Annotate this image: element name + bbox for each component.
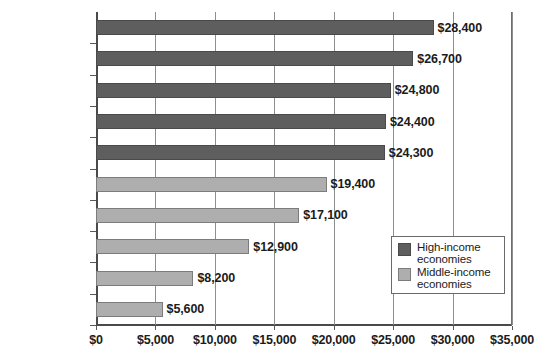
gridline [512, 12, 513, 325]
bar-chart: $28,400$26,700$24,800$24,400$24,300$19,4… [0, 0, 547, 361]
bar-row[interactable]: $24,800 [96, 83, 512, 98]
x-axis-tick-label: $35,000 [490, 333, 534, 347]
x-axis-tick-mark [393, 326, 394, 330]
y-axis-tick [90, 75, 96, 76]
y-axis-tick [90, 231, 96, 232]
bar-value-label: $5,600 [167, 302, 205, 316]
legend-item-middle-income: Middle-income economies [398, 267, 504, 290]
bar[interactable] [96, 302, 163, 317]
bar-row[interactable]: $28,400 [96, 20, 512, 35]
y-axis-tick [90, 294, 96, 295]
bar-row[interactable]: $24,300 [96, 145, 512, 160]
x-axis-tick-mark [512, 326, 513, 330]
legend-swatch-high-income [398, 243, 411, 256]
x-axis-tick-label: $20,000 [312, 333, 356, 347]
bar-row[interactable]: $19,400 [96, 177, 512, 192]
legend: High-income economies Middle-income econ… [391, 236, 505, 294]
bar[interactable] [96, 177, 327, 192]
y-axis-tick [90, 137, 96, 138]
y-axis-tick [90, 169, 96, 170]
bar[interactable] [96, 271, 193, 286]
bar[interactable] [96, 145, 385, 160]
x-axis-tick-mark [334, 326, 335, 330]
x-axis-tick-label: $10,000 [193, 333, 237, 347]
x-axis-tick-mark [215, 326, 216, 330]
y-axis-tick [90, 43, 96, 44]
x-axis-tick-mark [155, 326, 156, 330]
bar-row[interactable]: $26,700 [96, 51, 512, 66]
x-axis-tick-label: $25,000 [371, 333, 415, 347]
bar-value-label: $19,400 [331, 177, 376, 191]
x-axis-tick-mark [96, 326, 97, 330]
legend-label-high-income: High-income economies [417, 242, 480, 265]
bar[interactable] [96, 239, 249, 254]
bar-value-label: $8,200 [197, 271, 235, 285]
bar-row[interactable]: $5,600 [96, 302, 512, 317]
legend-label-middle-income: Middle-income economies [417, 267, 490, 290]
x-axis-tick-label: $15,000 [252, 333, 296, 347]
bar[interactable] [96, 51, 413, 66]
bar-value-label: $12,900 [253, 240, 298, 254]
x-axis-tick-label: $30,000 [431, 333, 475, 347]
bar-value-label: $17,100 [303, 208, 348, 222]
legend-swatch-middle-income [398, 268, 411, 281]
bar-value-label: $24,800 [395, 83, 440, 97]
bar-value-label: $28,400 [438, 21, 483, 35]
bar[interactable] [96, 208, 299, 223]
y-axis-tick [90, 262, 96, 263]
x-axis-tick-label: $0 [89, 333, 103, 347]
bar[interactable] [96, 114, 386, 129]
x-axis-tick-label: $5,000 [137, 333, 174, 347]
y-axis-tick [90, 200, 96, 201]
y-axis-tick [90, 106, 96, 107]
x-axis-tick-mark [274, 326, 275, 330]
legend-item-high-income: High-income economies [398, 242, 504, 265]
bar-row[interactable]: $17,100 [96, 208, 512, 223]
bar[interactable] [96, 83, 391, 98]
bar-value-label: $24,300 [389, 146, 434, 160]
bar[interactable] [96, 20, 434, 35]
bar-row[interactable]: $24,400 [96, 114, 512, 129]
bar-value-label: $26,700 [417, 52, 462, 66]
x-axis-tick-mark [453, 326, 454, 330]
bar-value-label: $24,400 [390, 115, 435, 129]
